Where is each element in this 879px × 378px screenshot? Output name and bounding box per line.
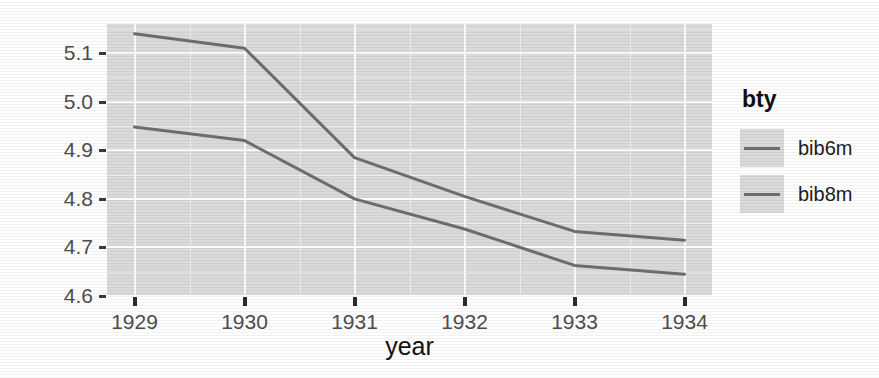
y-tick-mark <box>99 52 106 55</box>
x-tick-label: 1931 <box>331 310 378 334</box>
legend-item-label: bib6m <box>798 137 852 160</box>
legend-item[interactable]: bib6m <box>740 129 875 167</box>
series-lines <box>107 24 712 296</box>
y-tick-label: 4.6 <box>64 284 93 308</box>
x-tick-mark <box>463 297 467 306</box>
y-tick-mark <box>99 101 106 104</box>
x-tick-mark <box>243 297 247 306</box>
y-tick-label: 5.0 <box>64 90 93 114</box>
x-tick-mark <box>573 297 577 306</box>
legend-item[interactable]: bib8m <box>740 175 875 213</box>
y-tick-mark <box>99 149 106 152</box>
legend: bty bib6m bib8m <box>740 86 875 221</box>
x-tick-label: 1933 <box>551 310 598 334</box>
x-tick-label: 1934 <box>661 310 708 334</box>
x-axis-title: year <box>107 332 712 361</box>
legend-key-line-icon <box>740 175 784 213</box>
y-tick-label: 4.9 <box>64 138 93 162</box>
plot-panel <box>107 24 712 296</box>
x-tick-mark <box>683 297 687 306</box>
y-tick-label: 5.1 <box>64 41 93 65</box>
legend-item-label: bib8m <box>798 183 852 206</box>
line-series-bib6m <box>135 127 685 274</box>
chart-root: 5.15.04.94.84.74.6 log (num) 19291930193… <box>0 0 879 378</box>
x-tick-mark <box>133 297 137 306</box>
x-tick-label: 1932 <box>441 310 488 334</box>
y-tick-label: 4.8 <box>64 187 93 211</box>
legend-key-line-icon <box>740 129 784 167</box>
y-tick-mark <box>99 198 106 201</box>
y-tick-label: 4.7 <box>64 235 93 259</box>
x-tick-label: 1930 <box>221 310 268 334</box>
y-tick-mark <box>99 295 106 298</box>
x-tick-label: 1929 <box>111 310 158 334</box>
legend-title: bty <box>742 86 875 113</box>
y-tick-mark <box>99 246 106 249</box>
x-tick-mark <box>353 297 357 306</box>
